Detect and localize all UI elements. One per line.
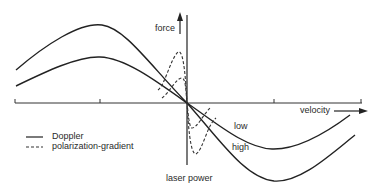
force-label: force	[155, 24, 175, 33]
high-curve-label: high	[232, 143, 249, 152]
low-curve-label: low	[234, 122, 248, 131]
legend-doppler-label: Doppler	[52, 132, 84, 141]
velocity-label: velocity	[300, 106, 330, 115]
laser-power-label: laser power	[166, 174, 213, 183]
force-arrow-icon	[177, 12, 183, 34]
velocity-axis	[15, 99, 362, 103]
legend-polarization-gradient-label: polarization-gradient	[52, 142, 134, 151]
velocity-arrow-icon	[334, 108, 368, 114]
force-velocity-diagram	[0, 0, 376, 191]
